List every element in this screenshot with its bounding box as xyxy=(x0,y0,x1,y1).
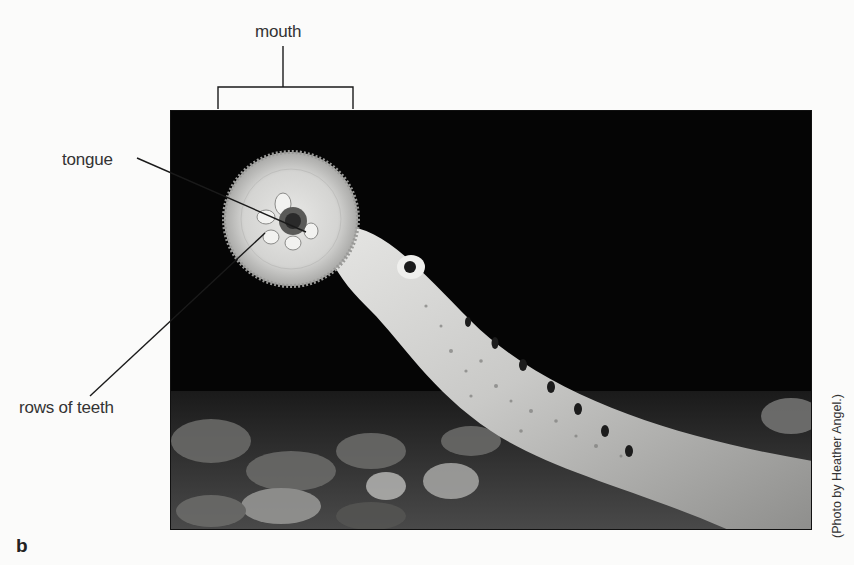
panel-label: b xyxy=(16,535,27,557)
lamprey-photo-illustration xyxy=(171,111,812,530)
mouth-label: mouth xyxy=(255,22,301,42)
mouth-bracket xyxy=(218,87,353,109)
tongue-label: tongue xyxy=(62,150,113,170)
lamprey-photo xyxy=(170,110,812,530)
photo-credit: (Photo by Heather Angel.) xyxy=(830,394,844,538)
rows-of-teeth-label: rows of teeth xyxy=(19,398,114,418)
